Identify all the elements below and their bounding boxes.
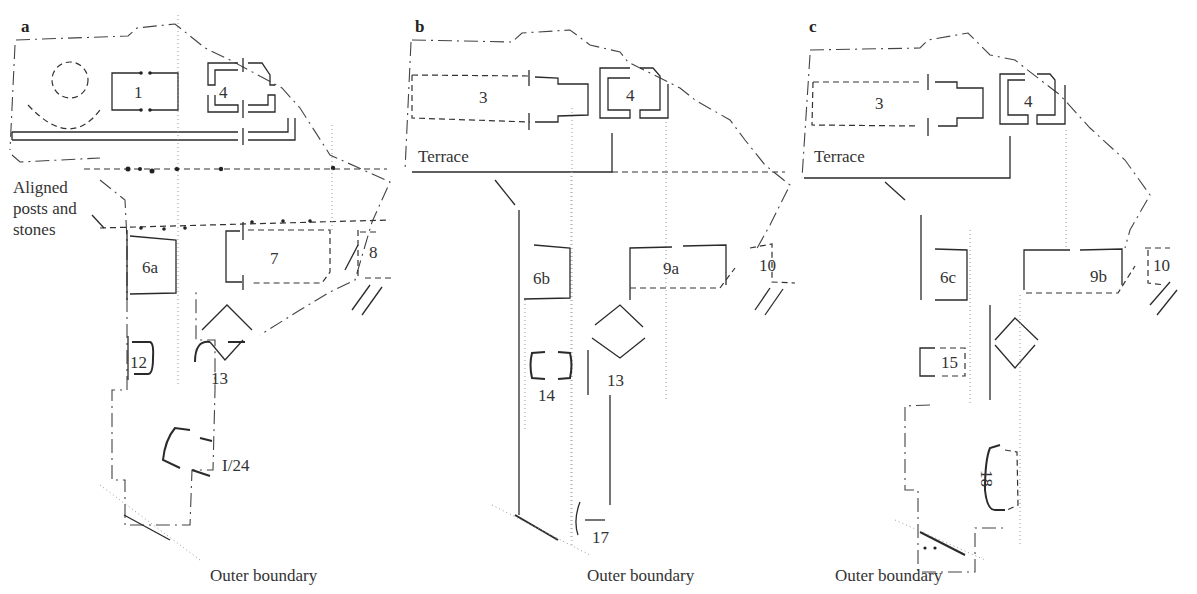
structure-15-label: 15 — [941, 354, 958, 371]
outer-boundary-label-a: Outer boundary — [210, 567, 317, 584]
panel-letter-c: c — [809, 17, 817, 37]
structure-17-label: 17 — [592, 529, 609, 546]
outer-boundary-label-c: Outer boundary — [835, 567, 942, 584]
panel-b-plan — [405, 30, 795, 555]
structure-4-label: 4 — [1024, 93, 1033, 110]
aligned-posts-label: Aligned posts and stones — [13, 177, 77, 240]
structure-3-label: 3 — [875, 95, 884, 112]
structure-12-label: 12 — [130, 354, 147, 371]
structure-13-label: 13 — [211, 370, 228, 387]
panel-c-plan — [802, 33, 1177, 572]
panel-a-plan — [10, 15, 395, 560]
structure-14-label: 14 — [538, 387, 555, 404]
panel-letter-b: b — [415, 17, 424, 37]
site-plan-drawing — [0, 0, 1197, 594]
structure-10-label: 10 — [1153, 257, 1170, 274]
structure-8-label: 8 — [369, 244, 378, 261]
structure-7-label: 7 — [270, 250, 279, 267]
structure-9b-label: 9b — [1090, 268, 1107, 285]
panel-letter-a: a — [21, 17, 30, 37]
structure-9a-label: 9a — [663, 260, 679, 277]
structure-1-label: 1 — [134, 84, 143, 101]
structure-4-label: 4 — [219, 84, 228, 101]
terrace-label: Terrace — [418, 148, 469, 165]
structure-10-label: 10 — [759, 257, 776, 274]
structure-4-label: 4 — [626, 87, 635, 104]
structure-I24-label: I/24 — [222, 457, 249, 474]
structure-18-label: 18 — [978, 470, 995, 487]
structure-13-label: 13 — [607, 372, 624, 389]
structure-6b-label: 6b — [533, 270, 550, 287]
structure-3-label: 3 — [479, 89, 488, 106]
structure-6c-label: 6c — [940, 269, 956, 286]
terrace-label: Terrace — [814, 148, 865, 165]
outer-boundary-label-b: Outer boundary — [587, 567, 694, 584]
structure-6a-label: 6a — [142, 259, 158, 276]
